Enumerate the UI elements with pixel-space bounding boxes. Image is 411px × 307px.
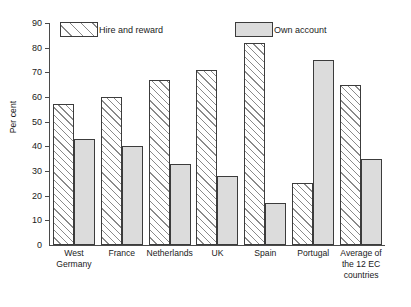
bar-group xyxy=(146,23,194,245)
bar-hire-and-reward xyxy=(244,43,265,245)
bar-own-account xyxy=(361,159,382,245)
x-axis-category-label: Average of the 12 EC countries xyxy=(331,248,391,281)
bar-own-account xyxy=(313,60,334,245)
bar-hire-and-reward xyxy=(340,85,361,245)
bar-hire-and-reward xyxy=(196,70,217,245)
legend-entry: Hire and reward xyxy=(60,22,163,37)
solid-swatch-icon xyxy=(235,22,273,37)
bar-hire-and-reward xyxy=(101,97,122,245)
bar-hire-and-reward xyxy=(53,104,74,245)
bar-hire-and-reward xyxy=(149,80,170,245)
bar-group xyxy=(50,23,98,245)
bar-own-account xyxy=(74,139,95,245)
bar-own-account xyxy=(217,176,238,245)
bar-chart: Per cent 0102030405060708090 West German… xyxy=(0,0,411,307)
legend-entry: Own account xyxy=(235,22,327,37)
bar-group xyxy=(241,23,289,245)
legend-label: Own account xyxy=(274,25,327,35)
plot-area xyxy=(50,23,385,245)
bar-own-account xyxy=(122,146,143,245)
x-axis-line xyxy=(49,245,385,246)
bar-own-account xyxy=(170,164,191,245)
bar-group xyxy=(194,23,242,245)
x-axis-category-labels: West GermanyFranceNetherlandsUKSpainPort… xyxy=(50,248,390,306)
bar-group xyxy=(337,23,385,245)
hatched-swatch-icon xyxy=(60,22,98,37)
bar-own-account xyxy=(265,203,286,245)
legend-label: Hire and reward xyxy=(99,25,163,35)
bar-group xyxy=(289,23,337,245)
bar-group xyxy=(98,23,146,245)
bar-hire-and-reward xyxy=(292,183,313,245)
